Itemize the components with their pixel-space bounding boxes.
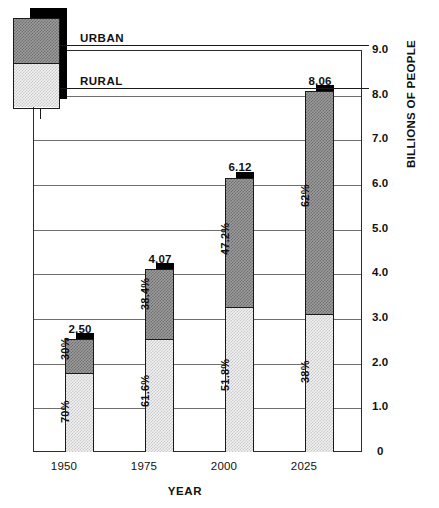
bar-percent-urban-2025: 62%: [299, 184, 311, 207]
plot-area: 2.50 30% 70% 4.07 38.4% 61.6% 6.12 47.2%…: [33, 50, 362, 452]
bar-percent-rural-2000: 51.8%: [219, 359, 231, 391]
legend: [10, 6, 75, 110]
ytick-label-3: 3.0: [372, 311, 388, 323]
bar-total-label-1950: 2.50: [57, 323, 103, 335]
bar-total-label-1975: 4.07: [137, 253, 183, 265]
legend-label-urban: URBAN: [80, 32, 124, 44]
xtick-label-2025: 2025: [274, 460, 334, 472]
legend-leader-urban: [59, 45, 369, 46]
ytick-label-1: 1.0: [372, 400, 388, 412]
xtick-label-2000: 2000: [194, 460, 254, 472]
legend-label-rural: RURAL: [80, 75, 123, 87]
bar-stack-2000[interactable]: [225, 178, 254, 451]
bar-total-label-2025: 8.06: [297, 75, 343, 87]
legend-swatch-urban: [14, 19, 59, 64]
bar-group-1975[interactable]: 4.07 38.4% 61.6%: [145, 261, 191, 451]
bar-group-2025[interactable]: 8.06 62% 38%: [305, 83, 351, 451]
bar-group-1950[interactable]: 2.50 30% 70%: [65, 331, 111, 451]
ytick-label-4: 4.0: [372, 266, 388, 278]
bar-percent-urban-1975: 38.4%: [139, 278, 151, 310]
chart-root: 2.50 30% 70% 4.07 38.4% 61.6% 6.12 47.2%…: [0, 0, 439, 508]
legend-leader-rural: [59, 88, 369, 89]
ytick-label-5: 5.0: [372, 222, 388, 234]
ytick-label-7: 7.0: [372, 132, 388, 144]
xtick-label-1975: 1975: [114, 460, 174, 472]
bar-total-label-2000: 6.12: [217, 161, 263, 173]
bar-percent-rural-2025: 38%: [299, 360, 311, 383]
legend-stem: [40, 109, 41, 119]
bar-percent-urban-2000: 47.2%: [219, 223, 231, 255]
bar-group-2000[interactable]: 6.12 47.2% 51.8%: [225, 169, 271, 451]
ytick-label-6: 6.0: [372, 177, 388, 189]
x-axis-title: YEAR: [0, 485, 370, 497]
xtick-label-1950: 1950: [34, 460, 94, 472]
bar-percent-rural-1975: 61.6%: [139, 375, 151, 407]
ytick-label-0: 0: [377, 445, 384, 457]
ytick-label-2: 2.0: [372, 356, 388, 368]
bar-stack-2025[interactable]: [305, 91, 334, 451]
legend-swatch-box: [13, 18, 60, 109]
bar-segment-rural-2025[interactable]: [306, 315, 333, 452]
ytick-label-8: 8.0: [372, 88, 388, 100]
bar-percent-rural-1950: 70%: [59, 400, 71, 423]
bar-percent-urban-1950: 30%: [59, 337, 71, 360]
legend-swatch-rural: [14, 64, 59, 107]
ytick-label-9: 9.0: [372, 43, 388, 55]
y-axis-title: BILLIONS OF PEOPLE: [405, 40, 417, 168]
